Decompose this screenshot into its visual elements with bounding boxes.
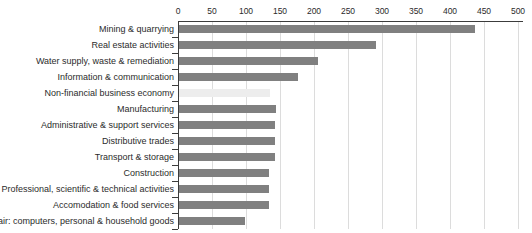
bar-chart: 050100150200250300350400450500 Mining & … [0, 0, 532, 233]
category-label: Repair: computers, personal & household … [0, 216, 174, 227]
bar [179, 73, 298, 81]
x-axis-tick-label: 500 [511, 6, 525, 17]
bar [179, 185, 269, 193]
bar-row: Water supply, waste & remediation [0, 53, 532, 69]
bar-row: Mining & quarrying [0, 21, 532, 37]
bar-row: Distributive trades [0, 133, 532, 149]
bar [179, 137, 275, 145]
bar-rows: Mining & quarryingReal estate activities… [0, 21, 532, 229]
x-axis-tick-label: 350 [409, 6, 423, 17]
x-axis-tick-label: 50 [207, 6, 216, 17]
bar-row: Transport & storage [0, 149, 532, 165]
category-label: Mining & quarrying [99, 24, 174, 35]
category-label: Real estate activities [91, 40, 174, 51]
x-axis-tick-label: 0 [176, 6, 181, 17]
x-axis-tick-label: 250 [341, 6, 355, 17]
bar [179, 41, 376, 49]
bar [179, 169, 269, 177]
category-label: Accomodation & food services [53, 200, 174, 211]
category-label: Distributive trades [102, 136, 174, 147]
category-label: Construction [123, 168, 174, 179]
bar-row: Information & communication [0, 69, 532, 85]
category-label: Non-financial business economy [44, 88, 174, 99]
bar-row: Accomodation & food services [0, 197, 532, 213]
bar-row: Administrative & support services [0, 117, 532, 133]
bar [179, 153, 275, 161]
category-label: Manufacturing [117, 104, 174, 115]
category-label: Transport & storage [95, 152, 174, 163]
x-axis-tick-labels: 050100150200250300350400450500 [0, 6, 532, 20]
x-axis-tick-label: 450 [477, 6, 491, 17]
bar [179, 25, 475, 33]
bar-row: Repair: computers, personal & household … [0, 213, 532, 229]
x-axis-tick-label: 200 [307, 6, 321, 17]
category-label: Administrative & support services [41, 120, 174, 131]
bar [179, 217, 245, 225]
category-label: Professional, scientific & technical act… [1, 184, 174, 195]
bar-row: Real estate activities [0, 37, 532, 53]
x-axis-tick-label: 100 [239, 6, 253, 17]
y-axis-tick [172, 229, 178, 230]
bar [179, 121, 275, 129]
bar-row: Construction [0, 165, 532, 181]
category-label: Information & communication [57, 72, 174, 83]
bar [179, 89, 270, 97]
bar [179, 57, 318, 65]
x-axis-tick-label: 400 [443, 6, 457, 17]
x-axis-tick-label: 300 [375, 6, 389, 17]
bar-row: Professional, scientific & technical act… [0, 181, 532, 197]
bar-row: Manufacturing [0, 101, 532, 117]
category-label: Water supply, waste & remediation [36, 56, 174, 67]
bar [179, 201, 269, 209]
bar [179, 105, 276, 113]
x-axis-tick-label: 150 [273, 6, 287, 17]
bar-row: Non-financial business economy [0, 85, 532, 101]
